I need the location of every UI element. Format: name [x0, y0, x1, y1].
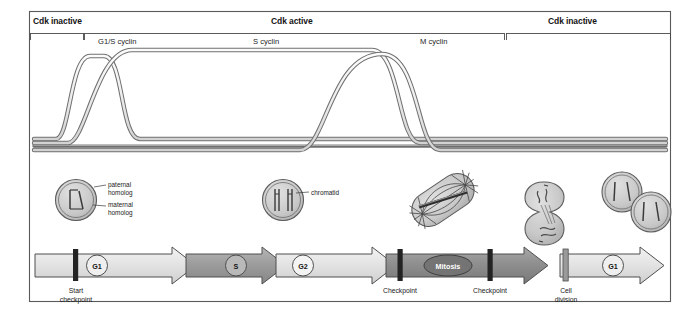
label-paternal-homolog-line2: homolog	[108, 189, 133, 197]
phase-arrow-g1	[35, 247, 196, 284]
checkpoint-label-metaphase: Checkpoint	[460, 287, 520, 295]
phase-label-g1-final: G1	[603, 262, 623, 271]
checkpoint-bar-start	[73, 249, 78, 281]
m-cyclin-curve	[34, 54, 666, 150]
phase-label-g1: G1	[87, 262, 107, 271]
mitosis-cell-illustration	[402, 162, 484, 236]
curve-label-m-cyclin: M cyclin	[420, 37, 447, 46]
phase-label-g2: G2	[293, 262, 313, 271]
cell-division-label-line1: Cell	[536, 287, 596, 295]
cell-division-bar	[563, 249, 568, 281]
curve-label-s-cyclin: S cyclin	[253, 37, 279, 46]
checkpoint-label-g2m: Checkpoint	[370, 287, 430, 295]
label-maternal-homolog-line1: maternal	[108, 201, 133, 209]
daughter-cells-illustration	[602, 172, 671, 232]
cdk-header-inactive-right: Cdk inactive	[548, 16, 597, 26]
phase-label-s: S	[226, 262, 246, 271]
checkpoint-label-start-line2: checkpoint	[46, 296, 106, 304]
diagram-canvas	[0, 0, 694, 321]
checkpoint-label-start-line1: Start	[46, 287, 106, 295]
s-g2-cell-illustration	[263, 180, 310, 221]
checkpoint-bar-g2m	[398, 249, 403, 281]
phase-label-mitosis: Mitosis	[424, 262, 472, 271]
g1-cell-illustration	[56, 180, 107, 221]
cell-division-label-line2: division	[536, 296, 596, 304]
label-chromatid: chromatid	[311, 189, 339, 197]
label-maternal-homolog-line2: homolog	[108, 209, 133, 217]
dividing-cell-illustration	[525, 182, 564, 245]
curve-label-g1s-cyclin: G1/S cyclin	[98, 37, 136, 46]
label-paternal-homolog-line1: paternal	[108, 181, 131, 189]
cdk-header-inactive-left: Cdk inactive	[33, 16, 82, 26]
cell-cycle-figure: Cdk inactive Cdk active Cdk inactive G1/…	[0, 0, 694, 321]
cdk-header-active: Cdk active	[271, 16, 313, 26]
checkpoint-bar-metaphase	[488, 249, 493, 281]
